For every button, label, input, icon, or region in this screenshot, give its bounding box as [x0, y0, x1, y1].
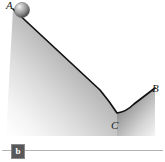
point-label-a: A [6, 0, 13, 11]
caption-divider [2, 150, 163, 151]
point-label-c: C [111, 120, 118, 131]
point-label-b: B [152, 83, 159, 94]
figure-container: A B C b [0, 0, 165, 162]
caption-badge-b: b [11, 144, 25, 159]
ramp-diagram [0, 0, 165, 140]
ground-shading-left [6, 9, 117, 136]
caption-bar: b [0, 140, 165, 162]
